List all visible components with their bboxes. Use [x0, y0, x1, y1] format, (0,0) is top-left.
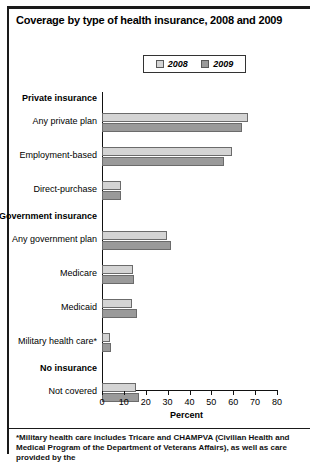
- category-label: Any government plan: [0, 234, 97, 244]
- category-label: Not covered: [0, 386, 97, 396]
- x-tick: [233, 391, 234, 395]
- category-label: Direct-purchase: [0, 184, 97, 194]
- bar-2009-direct-purchase: [102, 191, 121, 200]
- x-tick: [168, 391, 169, 395]
- x-tick-label: 0: [92, 397, 112, 407]
- footnote-text: *Military health care includes Tricare a…: [16, 433, 306, 463]
- x-tick-label: 60: [223, 397, 243, 407]
- category-label: Any private plan: [0, 116, 97, 126]
- bar-2008-direct-purchase: [102, 181, 121, 190]
- footnote-rule: [7, 428, 310, 429]
- x-tick-label: 20: [136, 397, 156, 407]
- legend-swatch-icon: [156, 60, 164, 68]
- legend-item: 2009: [201, 59, 233, 69]
- group-label-government-insurance: Government insurance: [0, 211, 97, 221]
- group-label-no-insurance: No insurance: [0, 363, 97, 373]
- x-tick: [277, 391, 278, 395]
- legend-item-label: 2008: [168, 59, 188, 69]
- bar-2008-any-private-plan: [102, 113, 248, 122]
- bar-2009-medicare: [102, 275, 134, 284]
- chart-title: Coverage by type of health insurance, 20…: [16, 14, 306, 27]
- x-tick-label: 70: [245, 397, 265, 407]
- x-tick: [211, 391, 212, 395]
- x-tick-label: 80: [267, 397, 287, 407]
- legend-item: 2008: [156, 59, 188, 69]
- bar-2009-military-health-care: [102, 343, 111, 352]
- category-label: Medicaid: [0, 302, 97, 312]
- x-axis-title: Percent: [0, 410, 313, 420]
- legend-swatch-icon: [201, 60, 209, 68]
- bar-2008-medicaid: [102, 299, 132, 308]
- bar-2008-military-health-care: [102, 333, 110, 342]
- x-tick-label: 50: [201, 397, 221, 407]
- x-tick: [146, 391, 147, 395]
- category-label: Military health care*: [0, 336, 97, 346]
- x-tick: [255, 391, 256, 395]
- bar-2008-any-government-plan: [102, 231, 167, 240]
- bar-2009-any-private-plan: [102, 123, 242, 132]
- x-tick: [102, 391, 103, 395]
- chart-legend: 20082009: [143, 55, 246, 73]
- category-label: Employment-based: [0, 150, 97, 160]
- bar-2008-not-covered: [102, 383, 136, 392]
- bar-2009-employment-based: [102, 157, 224, 166]
- legend-item-label: 2009: [213, 59, 233, 69]
- x-tick: [124, 391, 125, 395]
- x-tick-label: 10: [114, 397, 134, 407]
- plot-area: [102, 92, 277, 390]
- x-tick-label: 30: [158, 397, 178, 407]
- x-tick: [190, 391, 191, 395]
- category-label: Medicare: [0, 268, 97, 278]
- group-label-private-insurance: Private insurance: [0, 93, 97, 103]
- x-tick-label: 40: [180, 397, 200, 407]
- bar-2009-any-government-plan: [102, 241, 171, 250]
- frame-top-rule: [7, 6, 310, 9]
- bar-2008-medicare: [102, 265, 133, 274]
- bar-2009-medicaid: [102, 309, 137, 318]
- bar-2008-employment-based: [102, 147, 232, 156]
